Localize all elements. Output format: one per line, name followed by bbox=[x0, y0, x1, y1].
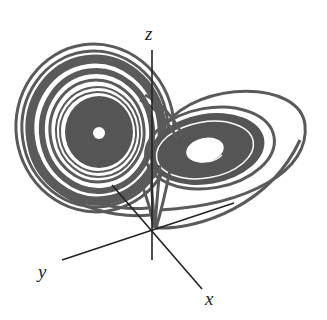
lorenz-attractor-figure: z y x bbox=[0, 0, 327, 320]
x-axis-label: x bbox=[204, 288, 214, 309]
left-lobe-core bbox=[65, 96, 133, 168]
attractor-plot: z y x bbox=[0, 0, 327, 320]
z-axis-label: z bbox=[144, 23, 153, 44]
y-axis-label: y bbox=[36, 261, 47, 282]
